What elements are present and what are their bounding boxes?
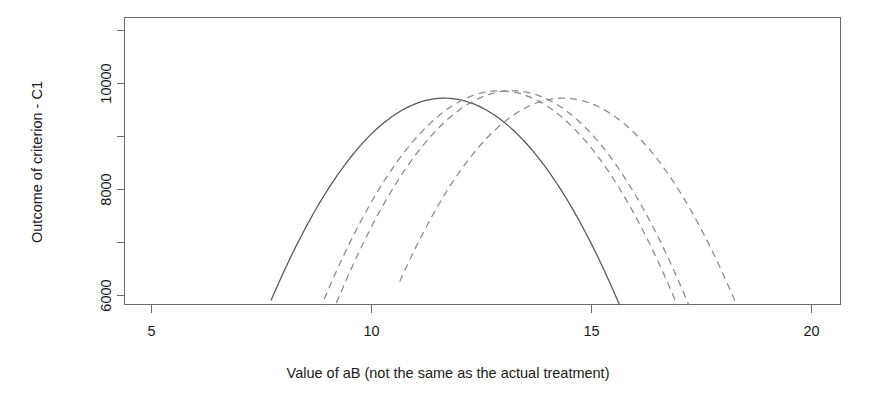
x-tick-label-15: 15 [583, 323, 599, 339]
y-tick-label-6000: 6000 [98, 279, 114, 311]
curve-4-dashed [400, 98, 759, 360]
curve-group [271, 91, 758, 360]
curve-3-dashed [332, 91, 697, 325]
y-tick-label-8000: 8000 [98, 173, 114, 205]
curve-2-dashed [311, 91, 678, 333]
x-axis-ticks [152, 305, 812, 313]
y-tick-label-10000: 10000 [98, 63, 114, 103]
x-tick-labels: 5 10 15 20 [147, 323, 819, 339]
x-axis-title: Value of aB (not the same as the actual … [287, 365, 610, 381]
x-tick-label-5: 5 [147, 323, 155, 339]
plot-frame [125, 18, 841, 305]
plot-canvas: 10000 8000 6000 5 10 15 20 Outcome of cr… [0, 0, 879, 400]
x-tick-label-10: 10 [363, 323, 379, 339]
x-tick-label-20: 20 [803, 323, 819, 339]
y-axis-title: Outcome of criterion - C1 [29, 81, 45, 243]
y-axis-ticks [117, 31, 124, 296]
y-tick-labels: 10000 8000 6000 [98, 63, 114, 311]
chart-figure: 10000 8000 6000 5 10 15 20 Outcome of cr… [0, 0, 879, 400]
